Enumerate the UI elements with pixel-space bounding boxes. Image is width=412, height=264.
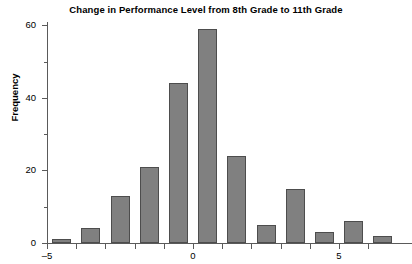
x-axis-tick [193,244,194,249]
y-axis-tick-label: 60 [8,20,36,30]
x-axis-tick [281,244,282,249]
x-axis-tick [47,244,48,249]
plot-area [47,22,412,243]
y-axis-tick-label: 40 [8,93,36,103]
x-axis-tick-label: –5 [32,251,62,261]
y-axis-tick-label: 20 [8,165,36,175]
histogram-bar [286,189,305,243]
x-axis-tick [368,244,369,249]
histogram-bar [315,232,334,243]
x-axis-tick [135,244,136,249]
x-axis-line [47,243,412,244]
histogram-bar [169,83,188,243]
histogram-bar [198,29,217,243]
x-axis-tick [251,244,252,249]
x-axis-tick [310,244,311,249]
histogram-figure: Change in Performance Level from 8th Gra… [0,0,412,264]
x-axis-tick [164,244,165,249]
y-axis-tick-label: 0 [8,238,36,248]
histogram-bar [344,221,363,243]
x-axis-tick [105,244,106,249]
x-axis-tick [222,244,223,249]
histogram-bar [227,156,246,243]
x-axis-tick [339,244,340,249]
histogram-bar [111,196,130,243]
page-title: Change in Performance Level from 8th Gra… [0,4,412,15]
histogram-bar [257,225,276,243]
histogram-bar [140,167,159,243]
x-axis-tick [76,244,77,249]
histogram-bar [52,239,71,243]
histogram-bar [373,236,392,243]
x-axis-tick-label: 5 [324,251,354,261]
histogram-bar [81,228,100,243]
x-axis-tick-label: 0 [178,251,208,261]
